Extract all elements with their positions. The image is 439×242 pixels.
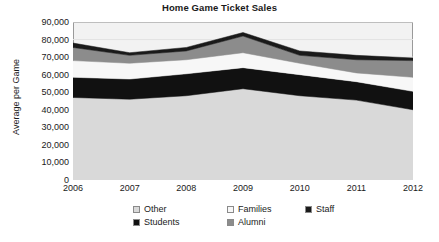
legend-label: Alumni	[238, 218, 266, 227]
y-axis-tick-labels: 90,00080,00070,00060,00050,00040,00030,0…	[3, 22, 69, 180]
chart-title: Home Game Ticket Sales	[0, 2, 439, 13]
legend-item-alumni[interactable]: Alumni	[227, 218, 266, 227]
plot-area	[73, 22, 413, 180]
legend-item-students[interactable]: Students	[133, 218, 180, 227]
y-tick-label: 30,000	[7, 122, 69, 132]
legend-swatch-icon	[133, 206, 140, 213]
x-tick-label: 2009	[233, 183, 253, 193]
legend-swatch-icon	[133, 219, 140, 226]
legend-label: Families	[238, 205, 272, 214]
legend-item-families[interactable]: Families	[227, 205, 272, 214]
x-tick-label: 2012	[403, 183, 423, 193]
x-tick-label: 2011	[347, 183, 366, 193]
legend-label: Students	[144, 218, 180, 227]
y-tick-label: 40,000	[7, 105, 69, 115]
legend-item-other[interactable]: Other	[133, 205, 167, 214]
x-tick-label: 2010	[290, 183, 310, 193]
chart-container: Home Game Ticket Sales Average per Game …	[0, 0, 439, 242]
y-tick-label: 20,000	[7, 140, 69, 150]
y-tick-label: 0	[7, 175, 69, 185]
legend-label: Staff	[316, 205, 334, 214]
x-tick-label: 2007	[120, 183, 140, 193]
y-tick-label: 70,000	[7, 52, 69, 62]
y-tick-label: 80,000	[7, 35, 69, 45]
x-tick-label: 2008	[176, 183, 196, 193]
x-tick-label: 2006	[63, 183, 83, 193]
area-series-other	[73, 89, 413, 180]
legend-label: Other	[144, 205, 167, 214]
legend-item-staff[interactable]: Staff	[305, 205, 334, 214]
y-tick-label: 60,000	[7, 70, 69, 80]
legend-swatch-icon	[305, 206, 312, 213]
y-tick-label: 50,000	[7, 87, 69, 97]
legend-swatch-icon	[227, 219, 234, 226]
chart-legend: OtherFamiliesStaffStudentsAlumni	[0, 205, 439, 235]
x-axis-tick-labels: 2006200720082009201020112012	[73, 183, 413, 197]
y-tick-label: 90,000	[7, 17, 69, 27]
stacked-area-plot	[73, 22, 413, 180]
legend-swatch-icon	[227, 206, 234, 213]
y-tick-label: 10,000	[7, 157, 69, 167]
